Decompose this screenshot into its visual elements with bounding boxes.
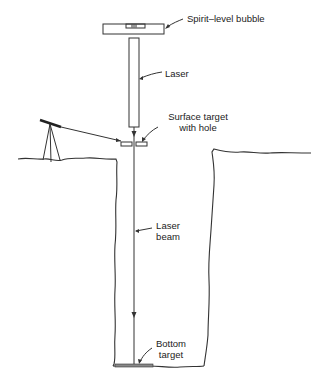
label-laser-beam-line2: beam [152, 231, 184, 242]
laser-shaft-diagram: Spirit–level bubble Laser Surface target… [0, 0, 322, 383]
bottom-target [115, 364, 153, 367]
spirit-level-plate [103, 24, 164, 34]
right-ground-and-wall [204, 149, 311, 366]
label-bottom-target-line2: target [153, 349, 189, 360]
label-surface-target: Surface target with hole [166, 111, 230, 133]
beam-arrow-top-icon [132, 131, 137, 137]
beam-arrow-bottom-icon [132, 312, 137, 318]
label-laser-beam-line1: Laser [152, 220, 184, 231]
diagram-drawing [0, 0, 322, 383]
label-surface-target-line1: Surface target [166, 111, 230, 122]
laser-tube [129, 38, 139, 127]
label-bottom-target: Bottom target [153, 338, 189, 360]
label-bottom-target-line1: Bottom [153, 338, 189, 349]
label-spirit-level-bubble: Spirit–level bubble [187, 13, 265, 24]
left-ground-and-wall [18, 158, 117, 366]
tripod-instrument [40, 120, 121, 162]
label-laser: Laser [165, 68, 189, 79]
label-laser-beam: Laser beam [152, 220, 184, 242]
sight-line [61, 127, 121, 141]
label-surface-target-line2: with hole [166, 122, 230, 133]
